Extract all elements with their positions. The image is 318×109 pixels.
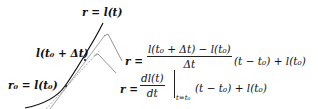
evaluation-bar: [174, 70, 175, 98]
point-b-label: r₀ = l(t₀): [8, 79, 58, 91]
tangent-eval-subscript: t=t₀: [176, 94, 190, 102]
tangent-fraction-bar: [140, 85, 165, 86]
secant-lhs-text: r =: [125, 55, 143, 67]
tangent-lhs-text: r =: [120, 83, 138, 95]
point-l-t0-plus-dt: [84, 59, 86, 61]
secant-numerator: l(t₀ + Δt) − l(t₀): [147, 43, 232, 55]
point-a-label: l(t₀ + Δt): [36, 47, 88, 59]
secant-leader: [104, 34, 122, 61]
tangent-eq-rhs: (t − t₀) + l(t₀): [195, 82, 267, 94]
tangent-rhs-text: (t − t₀) + l(t₀): [195, 82, 267, 94]
tangent-numerator: dl(t): [140, 72, 165, 84]
tangent-denominator: dt: [147, 87, 158, 99]
point-r0: [65, 85, 67, 87]
point-b-label-text: r₀ = l(t₀): [8, 79, 58, 91]
secant-fraction-bar: [147, 56, 232, 57]
tangent-eq-lhs: r =: [120, 83, 138, 95]
curve-label-text: r = l(t): [82, 6, 122, 18]
curve-label: r = l(t): [82, 6, 122, 18]
tangent-vector-diagram: r = l(t) l(t₀ + Δt) r₀ = l(t₀) r = l(t₀ …: [0, 0, 318, 109]
secant-eq-rhs: (t − t₀) + l(t₀): [234, 55, 306, 67]
secant-eq-lhs: r =: [125, 55, 143, 67]
eval-subscript-text: t=t₀: [176, 94, 190, 102]
secant-fraction: l(t₀ + Δt) − l(t₀) Δt: [147, 43, 232, 70]
tangent-fraction: dl(t) dt: [140, 72, 165, 99]
secant-rhs-text: (t − t₀) + l(t₀): [234, 55, 306, 67]
point-a-label-text: l(t₀ + Δt): [36, 47, 88, 59]
secant-denominator: Δt: [183, 58, 195, 70]
curve-l-t: [25, 23, 103, 108]
tangent-leader: [94, 54, 116, 73]
